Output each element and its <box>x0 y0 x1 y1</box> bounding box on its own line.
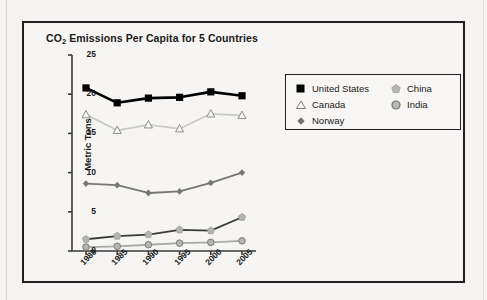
legend-item[interactable]: Norway <box>295 113 369 128</box>
page-edge-left <box>6 0 7 300</box>
triangle-open-icon <box>295 99 307 111</box>
square-filled-icon <box>295 83 307 95</box>
legend-item-label: China <box>407 83 432 94</box>
plot-area: Metric Tons 0510152025 19801985199019952… <box>64 51 256 273</box>
chart-title-prefix: CO <box>46 32 62 44</box>
circle-filled-icon <box>390 99 402 111</box>
chart-page: CO2 Emissions Per Capita for 5 Countries… <box>0 0 487 300</box>
legend-item-label: Canada <box>312 99 345 110</box>
y-axis-tick-label: 5 <box>91 206 96 216</box>
chart-title: CO2 Emissions Per Capita for 5 Countries <box>46 32 258 44</box>
x-axis-tick-labels: 198019851990199520002005 <box>64 251 264 291</box>
legend-item-label: Norway <box>312 115 344 126</box>
circle-filled-icon <box>390 99 402 111</box>
y-axis-tick-label: 10 <box>87 167 96 177</box>
legend-column-right: ChinaIndia <box>390 81 432 113</box>
chart-frame: CO2 Emissions Per Capita for 5 Countries… <box>22 21 465 283</box>
chart-title-subscript: 2 <box>62 37 66 46</box>
diamond-filled-icon <box>295 115 307 127</box>
triangle-open-icon <box>295 99 307 111</box>
legend-item[interactable]: Canada <box>295 97 369 112</box>
legend-item-label: India <box>407 99 428 110</box>
y-axis-tick-label: 20 <box>87 88 96 98</box>
series-united-states <box>82 84 245 106</box>
legend-column-left: United StatesCanadaNorway <box>295 81 369 129</box>
legend-item[interactable]: China <box>390 81 432 96</box>
pentagon-filled-icon <box>390 83 402 95</box>
pentagon-filled-icon <box>390 83 402 95</box>
series-india <box>83 238 246 251</box>
series-china <box>82 213 245 242</box>
legend-item[interactable]: India <box>390 97 432 112</box>
page-edge-right <box>483 0 484 300</box>
diamond-filled-icon <box>295 115 307 127</box>
chart-title-rest: Emissions Per Capita for 5 Countries <box>66 32 258 44</box>
y-axis-tick-label: 15 <box>87 127 96 137</box>
y-axis-tick-labels: 0510152025 <box>62 51 96 273</box>
series-canada <box>82 110 246 134</box>
square-filled-icon <box>295 83 307 95</box>
legend-item-label: United States <box>312 83 369 94</box>
series-norway <box>83 169 245 196</box>
legend-item[interactable]: United States <box>295 81 369 96</box>
y-axis-tick-label: 25 <box>87 49 96 59</box>
chart-legend: United StatesCanadaNorway ChinaIndia <box>285 74 461 130</box>
